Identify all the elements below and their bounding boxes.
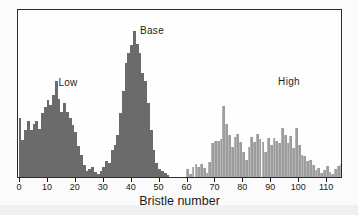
x-axis-tick-label: 100 bbox=[287, 182, 309, 192]
x-axis-tick-label: 70 bbox=[203, 182, 225, 192]
x-axis-tick-label: 50 bbox=[148, 182, 170, 192]
x-axis-tick-label: 20 bbox=[64, 182, 86, 192]
x-axis-tick-label: 80 bbox=[231, 182, 253, 192]
annotation-high: High bbox=[278, 76, 300, 87]
x-axis-tick-label: 60 bbox=[176, 182, 198, 192]
x-axis-tick-label: 110 bbox=[315, 182, 337, 192]
x-axis-tick-label: 30 bbox=[92, 182, 114, 192]
histogram-figure: LowBaseHigh 0102030405060708090100110 Br… bbox=[0, 0, 358, 215]
histogram-bar bbox=[167, 175, 170, 177]
annotation-base: Base bbox=[140, 25, 164, 36]
x-axis-tick-label: 40 bbox=[120, 182, 142, 192]
plot-area: LowBaseHigh bbox=[17, 9, 342, 178]
bottom-margin-strip bbox=[0, 205, 358, 215]
x-axis-tick-label: 10 bbox=[36, 182, 58, 192]
histogram-bar bbox=[340, 164, 342, 177]
x-axis-tick-label: 90 bbox=[259, 182, 281, 192]
x-axis-tick-label: 0 bbox=[8, 182, 30, 192]
annotation-low: Low bbox=[58, 77, 77, 88]
